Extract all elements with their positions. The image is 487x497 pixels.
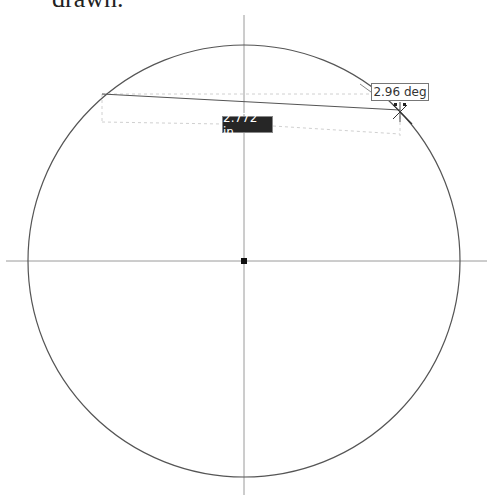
sketch-line-chord[interactable]	[102, 94, 400, 110]
angle-dimension-input[interactable]: 2.96 deg	[371, 83, 429, 101]
sketch-canvas[interactable]: drawn. 2.96 deg 2.772 in	[0, 0, 487, 497]
sketch-drawing	[0, 0, 487, 497]
cursor-snap-icon	[393, 102, 412, 124]
length-dimension-input[interactable]: 2.772 in	[222, 116, 273, 133]
dimension-line-right	[273, 126, 400, 134]
dimension-line-left	[102, 122, 222, 124]
center-point[interactable]	[241, 258, 247, 264]
